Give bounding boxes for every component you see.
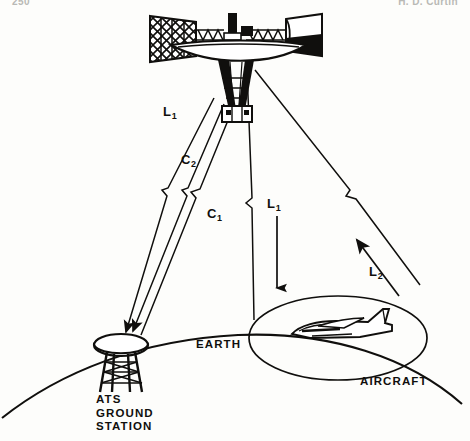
- boom-left: [196, 30, 224, 40]
- label-aircraft: AIRCRAFT: [360, 375, 428, 389]
- label-l1-uplink: L1: [163, 104, 176, 119]
- central-mast: [224, 13, 241, 40]
- horn-antenna-assembly: [218, 60, 254, 122]
- label-ats-line-2: GROUND: [96, 407, 154, 421]
- figure-page: 250 H. D. Curtin: [0, 0, 470, 441]
- beam-cone: [246, 70, 420, 320]
- label-earth: EARTH: [196, 338, 241, 352]
- label-l2-aircraft: L2: [369, 264, 382, 279]
- label-l1-beam: L1: [267, 196, 280, 211]
- label-c2-downlink: C2: [181, 152, 196, 167]
- instrument-box: [241, 26, 253, 36]
- satellite-dish: [171, 41, 306, 61]
- label-c1-uplink: C1: [207, 206, 222, 221]
- solar-panel-array: [150, 16, 196, 62]
- label-ats-line-1: ATS: [96, 393, 154, 407]
- label-ats-line-3: STATION: [96, 420, 154, 434]
- label-ats-ground-station: ATS GROUND STATION: [96, 393, 154, 434]
- aircraft: [292, 309, 392, 338]
